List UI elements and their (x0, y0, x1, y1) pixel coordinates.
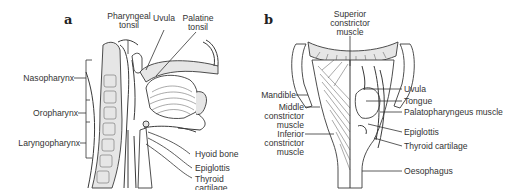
label-line: tonsil (102, 21, 156, 30)
label-palatine-tonsil: Palatine tonsil (176, 14, 220, 32)
label-line: cartilage (195, 184, 227, 190)
label-pharyngeal-tonsil: Pharyngeal tonsil (102, 12, 156, 30)
label-epiglottis: Epiglottis (404, 128, 439, 137)
label-thyroid-cartilage: Thyroid cartilage (195, 175, 227, 190)
panel-letter-b: b (264, 12, 273, 27)
label-line: muscle (248, 148, 304, 157)
label-oesophagus: Oesophagus (404, 167, 453, 176)
label-hyoid-bone: Hyoid bone (195, 150, 238, 159)
label-uvula: Uvula (404, 85, 426, 94)
label-oropharynx: Oropharynx (0, 109, 78, 118)
label-tongue: Tongue (404, 97, 432, 106)
label-thyroid-cartilage: Thyroid cartilage (404, 142, 468, 151)
label-epiglottis: Epiglottis (195, 164, 230, 173)
panel-a-sagittal-section: a Pharyngeal tonsil Uvula Palatine tonsi… (0, 0, 262, 190)
label-palatopharyngeus-muscle: Palatopharyngeus muscle (404, 108, 503, 117)
panel-letter-a: a (64, 12, 72, 27)
label-line: tonsil (176, 23, 220, 32)
panel-b-posterior-view: b Superior constrictor muscle Mandible M… (262, 0, 524, 190)
label-laryngopharynx: Laryngopharynx (0, 139, 80, 148)
posterior-pharynx-illustration (262, 0, 524, 190)
label-mandible: Mandible (248, 91, 296, 100)
label-uvula: Uvula (153, 14, 175, 23)
label-inferior-constrictor-muscle: Inferior constrictor muscle (248, 130, 304, 157)
label-middle-constrictor-muscle: Middle constrictor muscle (248, 103, 304, 130)
label-line: muscle (322, 28, 378, 37)
label-nasopharynx: Nasopharynx (0, 74, 74, 83)
label-superior-constrictor-muscle: Superior constrictor muscle (322, 10, 378, 37)
